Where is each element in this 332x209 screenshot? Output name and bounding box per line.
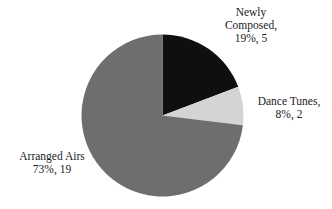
label-line: 19%, 5 bbox=[216, 32, 286, 45]
label-line: Composed, bbox=[216, 19, 286, 32]
pie-chart: Newly Composed, 19%, 5 Dance Tunes, 8%, … bbox=[0, 0, 332, 209]
label-line: Arranged Airs bbox=[12, 150, 92, 163]
label-arranged-airs: Arranged Airs 73%, 19 bbox=[12, 150, 92, 176]
label-line: 73%, 19 bbox=[12, 163, 92, 176]
label-newly-composed: Newly Composed, 19%, 5 bbox=[216, 6, 286, 45]
label-line: Newly bbox=[216, 6, 286, 19]
label-line: 8%, 2 bbox=[246, 108, 332, 121]
label-dance-tunes: Dance Tunes, 8%, 2 bbox=[246, 95, 332, 121]
label-line: Dance Tunes, bbox=[246, 95, 332, 108]
